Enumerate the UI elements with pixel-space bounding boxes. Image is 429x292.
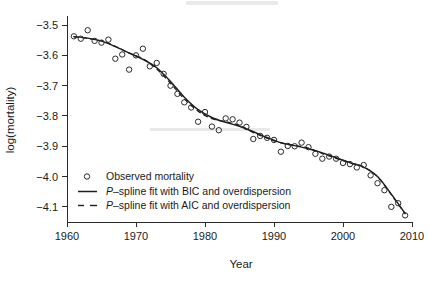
observed-point: [140, 46, 145, 51]
observed-point: [182, 100, 187, 105]
observed-point: [230, 117, 235, 122]
y-axis-title: log(mortality): [4, 87, 16, 154]
observed-point: [368, 173, 373, 178]
x-tick-label-1970: 1970: [124, 230, 148, 242]
observed-point: [278, 149, 283, 154]
observed-point: [195, 119, 200, 124]
y-tick-label--3.6: −3.6: [36, 49, 58, 61]
observed-point: [126, 67, 131, 72]
legend-label-aic-fit: P–spline fit with AIC and overdispersion: [106, 199, 291, 211]
observed-point: [389, 204, 394, 209]
observed-point: [85, 28, 90, 33]
observed-point: [320, 156, 325, 161]
y-tick-label--3.9: −3.9: [36, 140, 58, 152]
observed-point: [147, 64, 152, 69]
y-tick-label--4: −4.0: [36, 171, 58, 183]
legend-label-observed-mortality: Observed mortality: [106, 170, 195, 182]
observed-point: [154, 60, 159, 65]
chart-legend: Observed mortality P–spline fit with BIC…: [78, 170, 291, 211]
observed-point: [237, 120, 242, 125]
y-tick-label--4.1: −4.1: [36, 201, 58, 213]
observed-point: [120, 52, 125, 57]
y-tick-label--3.5: −3.5: [36, 19, 58, 31]
x-axis-title: Year: [229, 258, 252, 270]
x-tick-label-1990: 1990: [262, 230, 286, 242]
mortality-scatter-chart: 196019701980199020002010−3.5−3.6−3.7−3.8…: [0, 0, 429, 292]
legend-label-bic-fit: P–spline fit with BIC and overdispersion: [106, 185, 291, 197]
observed-point: [313, 151, 318, 156]
observed-point: [354, 165, 359, 170]
y-tick-label--3.7: −3.7: [36, 80, 58, 92]
observed-point: [382, 187, 387, 192]
x-tick-label-1980: 1980: [193, 230, 217, 242]
chart-figure: 196019701980199020002010−3.5−3.6−3.7−3.8…: [0, 0, 429, 292]
x-tick-label-2010: 2010: [400, 230, 424, 242]
y-tick-label--3.8: −3.8: [36, 110, 58, 122]
observed-point: [106, 37, 111, 42]
observed-point: [223, 116, 228, 121]
observed-point: [113, 56, 118, 61]
observed-point: [251, 136, 256, 141]
x-tick-label-2000: 2000: [331, 230, 355, 242]
legend-marker-observed-circle-icon: [84, 174, 89, 179]
observed-point: [299, 140, 304, 145]
x-tick-label-1960: 1960: [55, 230, 79, 242]
scan-artifact: [186, 1, 278, 5]
observed-point: [375, 181, 380, 186]
